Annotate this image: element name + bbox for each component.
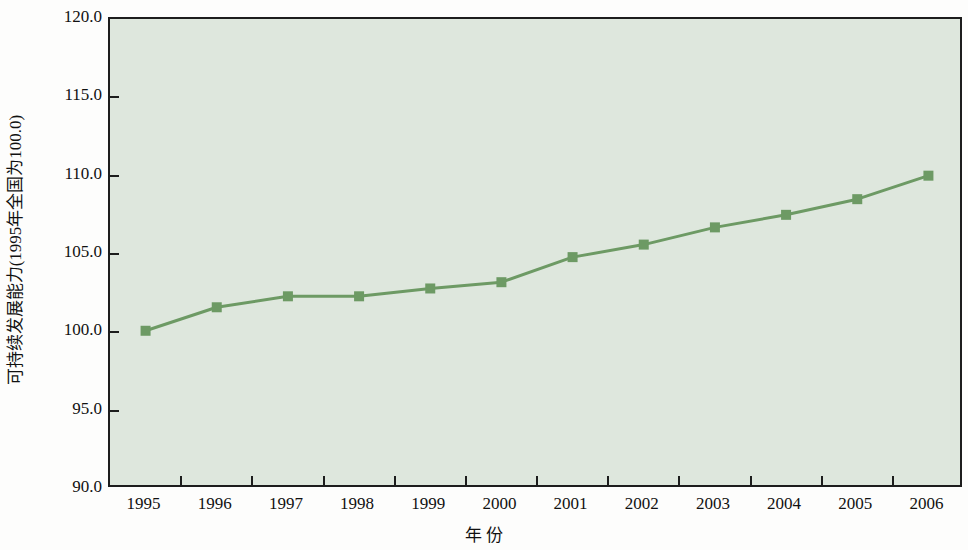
x-axis-title-text: 年 份 [465, 526, 503, 545]
y-axis-tick-label: 110.0 [32, 165, 102, 182]
y-axis-tick-label: 105.0 [32, 243, 102, 260]
y-axis-tick-label: 100.0 [32, 321, 102, 338]
data-point-marker [141, 326, 151, 336]
x-axis-tick-label: 1997 [256, 494, 316, 514]
y-axis-tick-label: 90.0 [32, 478, 102, 495]
x-axis-tick-mark [536, 476, 538, 485]
y-axis-tick-labels: 120.0115.0110.0105.0100.095.090.0 [28, 0, 102, 550]
line-series-svg [110, 19, 964, 489]
data-point-marker [710, 222, 720, 232]
x-axis-tick-mark [465, 476, 467, 485]
x-axis-tick-mark [607, 476, 609, 485]
chart-figure: 可持续发展能力(1995年全国为100.0) 120.0115.0110.010… [0, 0, 968, 550]
x-axis-tick-label: 2005 [825, 494, 885, 514]
x-axis-title: 年 份 [0, 521, 968, 546]
x-axis-tick-mark [750, 476, 752, 485]
data-point-marker [639, 240, 649, 250]
x-axis-tick-mark [251, 476, 253, 485]
y-axis-tick-mark [110, 96, 119, 98]
y-axis-tick-label: 120.0 [32, 8, 102, 25]
series-markers [141, 171, 934, 336]
y-axis-tick-mark [110, 410, 119, 412]
plot-area [108, 17, 962, 487]
y-axis-title-text: 可持续发展能力(1995年全国为100.0) [1, 115, 26, 386]
data-point-marker [781, 210, 791, 220]
x-axis-tick-label: 2001 [541, 494, 601, 514]
data-point-marker [852, 194, 862, 204]
data-point-marker [354, 291, 364, 301]
y-axis-tick-label: 115.0 [32, 86, 102, 103]
x-axis-tick-label: 1999 [398, 494, 458, 514]
data-point-marker [923, 171, 933, 181]
data-point-marker [425, 283, 435, 293]
x-axis-tick-label: 2000 [469, 494, 529, 514]
data-point-marker [496, 277, 506, 287]
y-axis-tick-label: 95.0 [32, 400, 102, 417]
data-point-marker [283, 291, 293, 301]
y-axis-tick-mark [110, 253, 119, 255]
y-axis-tick-mark [110, 331, 119, 333]
series-line [146, 176, 929, 331]
x-axis-tick-mark [180, 476, 182, 485]
y-axis-tick-mark [110, 175, 119, 177]
y-axis-title: 可持续发展能力(1995年全国为100.0) [0, 20, 26, 480]
x-axis-tick-mark [821, 476, 823, 485]
x-axis-tick-label: 1995 [114, 494, 174, 514]
x-axis-tick-mark [892, 476, 894, 485]
x-axis-tick-label: 1998 [327, 494, 387, 514]
x-axis-tick-label: 1996 [185, 494, 245, 514]
data-point-marker [568, 252, 578, 262]
x-axis-tick-label: 2002 [612, 494, 672, 514]
x-axis-tick-mark [323, 476, 325, 485]
x-axis-tick-label: 2003 [683, 494, 743, 514]
x-axis-tick-label: 2004 [754, 494, 814, 514]
x-axis-tick-labels: 1995199619971998199920002001200220032004… [108, 494, 962, 518]
x-axis-tick-mark [678, 476, 680, 485]
x-axis-tick-mark [394, 476, 396, 485]
x-axis-tick-label: 2006 [896, 494, 956, 514]
data-point-marker [212, 302, 222, 312]
